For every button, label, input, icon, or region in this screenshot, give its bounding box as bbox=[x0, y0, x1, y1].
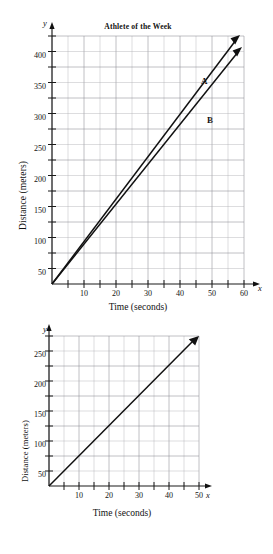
x-tick-label: 40 bbox=[170, 289, 190, 298]
y-tick-label: 150 bbox=[18, 410, 46, 419]
x-tick-label: 50 bbox=[189, 491, 209, 500]
x-tick-label: 30 bbox=[138, 289, 158, 298]
grid-major-vertical bbox=[52, 36, 244, 284]
x-tick-label: 10 bbox=[74, 289, 94, 298]
y-axis-letter: y bbox=[43, 324, 47, 334]
y-tick-label: 200 bbox=[18, 380, 46, 389]
figure-athlete-of-the-week: Athlete of the Week y x Distance (meters… bbox=[0, 0, 273, 310]
series-line-b bbox=[52, 47, 242, 284]
grid-minor-vertical bbox=[68, 36, 228, 284]
chart-title: Athlete of the Week bbox=[58, 22, 218, 31]
series-label-a: A bbox=[201, 76, 208, 86]
y-tick-label: 50 bbox=[22, 470, 46, 479]
x-tick-label: 50 bbox=[202, 289, 222, 298]
series-line-a bbox=[52, 35, 240, 284]
grid-major-vertical bbox=[49, 336, 199, 486]
x-axis-ticks bbox=[68, 280, 244, 288]
y-tick-label: 400 bbox=[20, 51, 46, 60]
grid-major-horizontal bbox=[52, 36, 244, 253]
y-axis-ticks bbox=[45, 336, 53, 471]
series-label-b: B bbox=[207, 115, 213, 125]
x-axis-arrow bbox=[205, 483, 212, 488]
y-axis-letter: y bbox=[43, 18, 47, 28]
y-tick-label: 250 bbox=[20, 144, 46, 153]
y-axis-arrow bbox=[49, 22, 54, 29]
y-tick-label: 100 bbox=[20, 237, 46, 246]
chart-plot-area-top bbox=[0, 0, 273, 310]
x-axis-title: Time (seconds) bbox=[62, 508, 182, 518]
y-axis-title: Distance (meters) bbox=[18, 161, 28, 230]
x-tick-label: 20 bbox=[99, 491, 119, 500]
x-axis-ticks bbox=[64, 482, 199, 490]
y-axis-ticks bbox=[48, 36, 56, 269]
y-tick-label: 100 bbox=[18, 440, 46, 449]
grid-minor-horizontal bbox=[49, 351, 199, 471]
figure-second-graph: y x Distance (meters) Time (seconds) 50 … bbox=[0, 310, 273, 554]
x-tick-label: 10 bbox=[69, 491, 89, 500]
x-tick-label: 40 bbox=[159, 491, 179, 500]
y-tick-label: 50 bbox=[24, 268, 46, 277]
x-tick-label: 20 bbox=[106, 289, 126, 298]
grid-major-horizontal bbox=[49, 336, 199, 456]
x-axis-letter: x bbox=[258, 283, 262, 293]
y-tick-label: 200 bbox=[20, 175, 46, 184]
series-line bbox=[49, 336, 199, 486]
y-tick-label: 350 bbox=[20, 82, 46, 91]
x-tick-label: 30 bbox=[129, 491, 149, 500]
y-tick-label: 250 bbox=[18, 350, 46, 359]
y-tick-label: 150 bbox=[20, 206, 46, 215]
y-tick-label: 300 bbox=[20, 113, 46, 122]
y-axis-arrow bbox=[46, 324, 51, 331]
worksheet-page: Athlete of the Week y x Distance (meters… bbox=[0, 0, 273, 554]
grid-minor-horizontal bbox=[52, 52, 244, 269]
x-tick-label: 60 bbox=[234, 289, 254, 298]
grid-minor-vertical bbox=[64, 336, 184, 486]
